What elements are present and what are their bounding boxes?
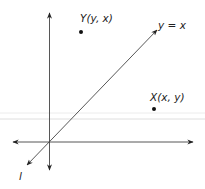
point-x (152, 107, 156, 111)
point-y (79, 30, 83, 34)
reflection-diagram: Y(y, x) y = x X(x, y) l (0, 0, 205, 189)
point-y-label: Y(y, x) (80, 12, 113, 24)
point-x-label: X(x, y) (149, 91, 185, 103)
line-l-label: l (19, 170, 22, 182)
line-equation-label: y = x (157, 19, 187, 31)
line-y-equals-x (27, 30, 157, 165)
